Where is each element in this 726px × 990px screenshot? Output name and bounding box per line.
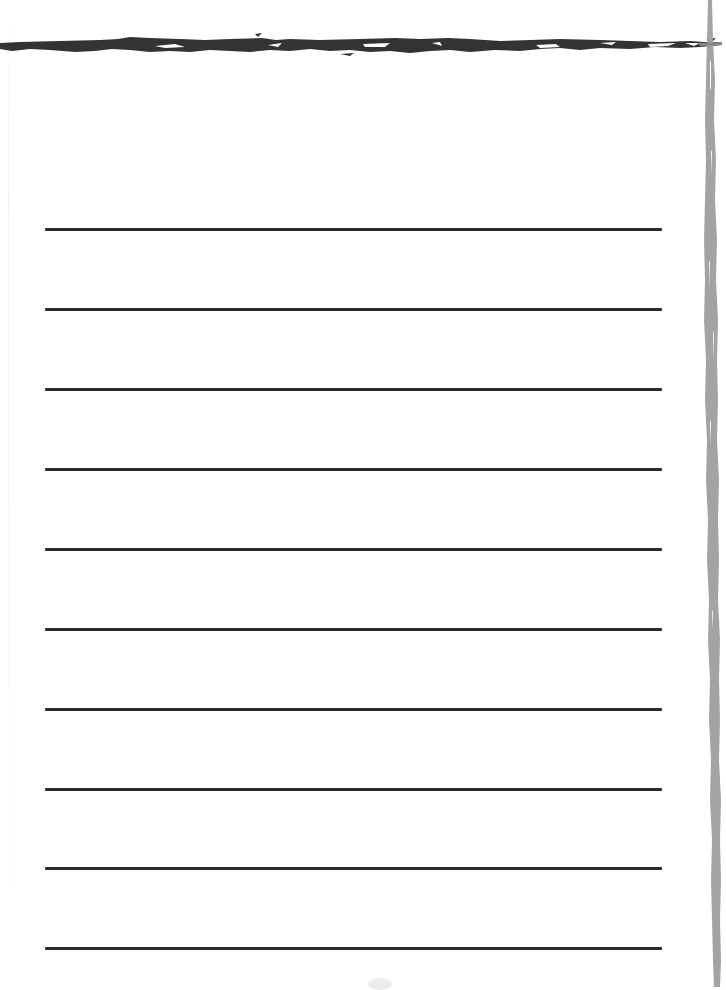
- ruled-line-10: [45, 947, 662, 950]
- ruled-line-2: [45, 308, 662, 311]
- ruled-line-6: [45, 628, 662, 631]
- left-edge-mark: [8, 0, 9, 987]
- bottom-smudge: [368, 978, 392, 990]
- right-brush-border: [696, 0, 726, 987]
- ruled-line-9: [45, 867, 662, 870]
- ruled-line-4: [45, 468, 662, 471]
- ruled-line-1: [45, 228, 662, 231]
- ruled-line-3: [45, 388, 662, 391]
- ruled-line-5: [45, 548, 662, 551]
- ruled-line-8: [45, 788, 662, 791]
- ruled-line-7: [45, 708, 662, 711]
- top-brush-border: [0, 30, 726, 64]
